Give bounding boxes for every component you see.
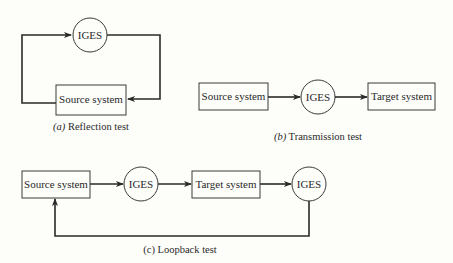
reflection-test-diagram: IGES Source system (a) Reflection test xyxy=(22,18,160,133)
loopback-test-diagram: Source system IGES Target system IGES (c… xyxy=(22,167,326,256)
transmission-test-diagram: Source system IGES Target system (b) Tra… xyxy=(199,80,435,143)
transmission-caption: (b) Transmission test xyxy=(274,131,362,143)
loopback-target-label: Target system xyxy=(195,178,256,190)
transmission-caption-text: Transmission test xyxy=(286,131,362,142)
reflection-arrow-to-source xyxy=(107,35,160,99)
reflection-caption-letter: (a) xyxy=(53,121,66,133)
transmission-caption-letter: (b) xyxy=(274,131,287,143)
transmission-source-label: Source system xyxy=(202,90,266,102)
transmission-target-label: Target system xyxy=(371,90,432,102)
iges-test-diagrams: IGES Source system (a) Reflection test S… xyxy=(0,0,453,263)
loopback-iges1-label: IGES xyxy=(129,178,153,190)
transmission-iges-label: IGES xyxy=(306,91,330,103)
loopback-iges2-label: IGES xyxy=(297,178,321,190)
loopback-caption: (c) Loopback test xyxy=(143,244,217,256)
reflection-iges-label: IGES xyxy=(78,29,102,41)
reflection-caption-text: Reflection test xyxy=(65,121,129,132)
loopback-source-label: Source system xyxy=(24,178,88,190)
reflection-source-label: Source system xyxy=(59,93,123,105)
reflection-caption: (a) Reflection test xyxy=(53,121,129,133)
loopback-return-arrow xyxy=(55,199,309,236)
